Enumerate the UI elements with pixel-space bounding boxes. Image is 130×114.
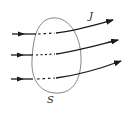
surface-label: S bbox=[47, 95, 54, 105]
surface-s-outline bbox=[32, 18, 81, 93]
flux-line-bottom bbox=[11, 61, 121, 82]
arrowhead-icon bbox=[17, 77, 24, 82]
current-density-label: J bbox=[89, 11, 93, 21]
arrowhead-icon bbox=[17, 53, 24, 58]
arrowhead-icon bbox=[18, 32, 25, 37]
flux-line-top bbox=[12, 20, 113, 37]
diagram-canvas bbox=[0, 0, 130, 114]
flux-line-middle bbox=[11, 40, 118, 58]
